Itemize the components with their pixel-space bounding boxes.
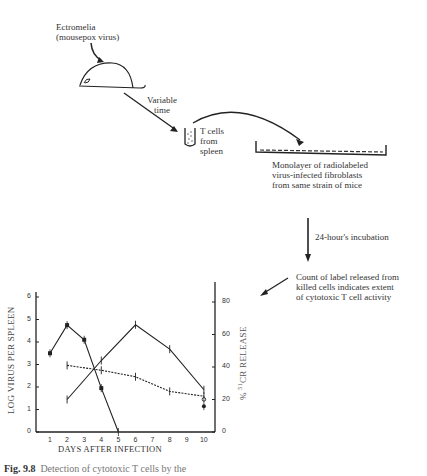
x-axis-title: DAYS AFTER INFECTION [58, 444, 162, 454]
y-right-tick-label: 40 [222, 362, 230, 369]
x-tick-label: 3 [82, 436, 86, 443]
series-line [67, 325, 204, 400]
figure-caption: Fig. 9.8 Detection of cytotoxic T cells … [4, 463, 186, 474]
y-axis-right-title: % 51CR RELEASE [237, 326, 248, 400]
y-left-tick-label: 4 [27, 337, 31, 344]
caption-text: Detection of cytotoxic T cells by the [40, 463, 186, 474]
x-tick-label: 6 [134, 436, 138, 443]
caption-fig-number: Fig. 9.8 [4, 463, 35, 474]
series-line [67, 365, 204, 396]
y-left-tick-label: 1 [27, 405, 31, 412]
y-left-tick-label: 6 [27, 292, 31, 299]
y-right-tick-label: 60 [222, 330, 230, 337]
x-tick-label: 2 [65, 436, 69, 443]
y-left-tick-label: 0 [27, 427, 31, 434]
x-tick-label: 10 [200, 436, 208, 443]
x-tick-label: 4 [99, 436, 103, 443]
x-tick-label: 5 [116, 436, 120, 443]
x-tick-label: 9 [185, 436, 189, 443]
x-tick-label: 1 [48, 436, 52, 443]
y-right-tick-label: 20 [222, 395, 230, 402]
y-left-tick-label: 2 [27, 382, 31, 389]
y-axis-left-title: LOG VIRUS PER SPLEEN [6, 306, 16, 414]
x-tick-label: 7 [151, 436, 155, 443]
y-right-tick-label: 80 [222, 297, 230, 304]
chart-plot [0, 0, 427, 476]
y-left-tick-label: 3 [27, 360, 31, 367]
y-left-tick-label: 5 [27, 315, 31, 322]
y-right-tick-label: 0 [222, 427, 226, 434]
x-tick-label: 8 [168, 436, 172, 443]
